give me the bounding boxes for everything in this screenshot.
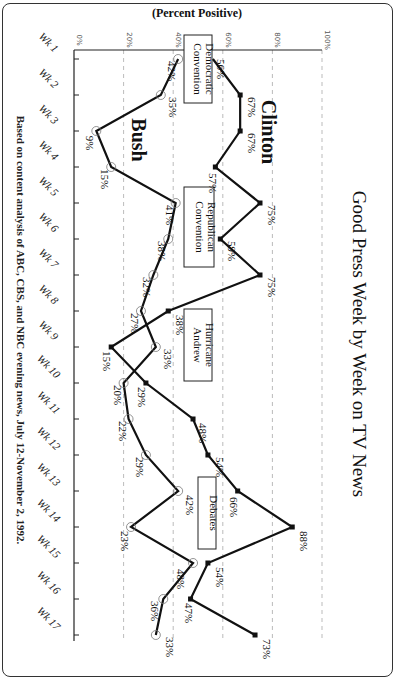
clinton-value-label: 75% bbox=[266, 205, 278, 225]
clinton-value-label: 73% bbox=[261, 639, 273, 659]
clinton-marker-filled-square bbox=[235, 489, 240, 494]
clinton-value-label: 29% bbox=[136, 387, 148, 407]
clinton-value-label: 56% bbox=[215, 59, 227, 79]
clinton-marker-filled-square bbox=[109, 345, 114, 350]
y-tick-label: 100% bbox=[323, 30, 331, 50]
bush-value-label: 29% bbox=[134, 457, 146, 477]
clinton-value-label: 57% bbox=[207, 173, 219, 193]
y-tick-label: 0% bbox=[75, 34, 83, 45]
week-label: Wk 14 bbox=[35, 496, 63, 524]
clinton-value-label: 66% bbox=[228, 497, 240, 517]
annotation-label: Convention bbox=[192, 43, 204, 95]
week-label: Wk 6 bbox=[37, 210, 62, 235]
y-tick-label: 40% bbox=[174, 32, 182, 48]
week-label: Wk 11 bbox=[35, 388, 63, 416]
annotation-label: Debates bbox=[208, 495, 220, 530]
week-label: Wk 9 bbox=[37, 318, 62, 343]
clinton-marker-filled-square bbox=[290, 525, 295, 530]
week-label: Wk 3 bbox=[37, 102, 62, 127]
week-label: Wk 13 bbox=[35, 460, 63, 488]
bush-value-label: 33% bbox=[164, 637, 176, 657]
clinton-marker-filled-square bbox=[238, 93, 243, 98]
clinton-marker-filled-square bbox=[143, 381, 148, 386]
clinton-marker-filled-square bbox=[166, 309, 171, 314]
bush-value-label: 36% bbox=[149, 601, 161, 621]
annotation-label: Convention bbox=[194, 201, 206, 253]
week-label: Wk 5 bbox=[37, 174, 62, 199]
week-label: Wk 7 bbox=[37, 246, 62, 271]
chart-caption: Based on content analysis of ABC, CBS, a… bbox=[15, 116, 27, 545]
bush-value-label: 22% bbox=[117, 421, 129, 441]
y-tick-label: 20% bbox=[125, 32, 133, 48]
clinton-value-label: 59% bbox=[226, 241, 238, 261]
bush-series-label: Bush bbox=[128, 118, 150, 161]
clinton-value-label: 15% bbox=[101, 351, 113, 371]
clinton-value-label: 38% bbox=[174, 315, 186, 335]
y-tick-label: 80% bbox=[273, 32, 281, 48]
bush-value-label: 41% bbox=[164, 205, 176, 225]
clinton-marker-filled-square bbox=[191, 417, 196, 422]
week-label: Wk 1 bbox=[37, 30, 61, 54]
clinton-marker-filled-square bbox=[188, 597, 193, 602]
clinton-value-label: 54% bbox=[214, 457, 226, 477]
bush-value-label: 42% bbox=[184, 495, 196, 515]
clinton-marker-filled-square bbox=[205, 561, 210, 566]
week-label: Wk 12 bbox=[35, 424, 63, 452]
bush-value-label: 33% bbox=[162, 349, 174, 369]
clinton-value-label: 54% bbox=[214, 567, 226, 587]
bush-value-label: 20% bbox=[112, 385, 124, 405]
clinton-marker-filled-square bbox=[258, 201, 263, 206]
annotation-label: Hurricane bbox=[204, 323, 216, 367]
clinton-value-label: 67% bbox=[246, 133, 258, 153]
clinton-value-label: 47% bbox=[183, 603, 195, 623]
clinton-marker-filled-square bbox=[205, 453, 210, 458]
week-label: Wk 10 bbox=[35, 352, 63, 380]
y-tick-label: 60% bbox=[224, 32, 232, 48]
clinton-marker-filled-square bbox=[213, 165, 218, 170]
clinton-marker-filled-square bbox=[253, 633, 258, 638]
annotation-label: Andrew bbox=[192, 327, 204, 362]
bush-value-label: 35% bbox=[167, 97, 179, 117]
bush-value-label: 27% bbox=[129, 313, 141, 333]
clinton-series-label: Clinton bbox=[258, 100, 280, 164]
clinton-marker-filled-square bbox=[258, 273, 263, 278]
rotated-line-chart: 0%20%40%60%80%100%(Percent Positive)Wk 1… bbox=[0, 0, 399, 684]
chart-title: Good Press Week by Week on TV News bbox=[349, 191, 370, 497]
week-label: Wk 8 bbox=[37, 282, 62, 307]
clinton-marker-filled-square bbox=[238, 129, 243, 134]
week-label: Wk 4 bbox=[37, 138, 62, 163]
week-label: Wk 16 bbox=[35, 568, 63, 596]
axis-title: (Percent Positive) bbox=[152, 6, 242, 20]
bush-value-label: 38% bbox=[156, 241, 168, 261]
clinton-value-label: 48% bbox=[197, 423, 209, 443]
week-label: Wk 17 bbox=[35, 604, 63, 632]
bush-value-label: 15% bbox=[99, 169, 111, 189]
annotation-label: Republican bbox=[206, 202, 218, 253]
week-label: Wk 15 bbox=[35, 532, 63, 560]
week-label: Wk 2 bbox=[37, 66, 62, 91]
annotation-label: Democratic bbox=[204, 43, 216, 94]
clinton-value-label: 75% bbox=[266, 277, 278, 297]
clinton-value-label: 67% bbox=[246, 97, 258, 117]
bush-value-label: 48% bbox=[175, 569, 187, 589]
bush-value-label: 32% bbox=[141, 277, 153, 297]
bush-value-label: 9% bbox=[84, 136, 96, 151]
clinton-marker-filled-square bbox=[218, 237, 223, 242]
bush-value-label: 42% bbox=[166, 61, 178, 81]
clinton-value-label: 88% bbox=[298, 531, 310, 551]
bush-value-label: 23% bbox=[119, 531, 131, 551]
